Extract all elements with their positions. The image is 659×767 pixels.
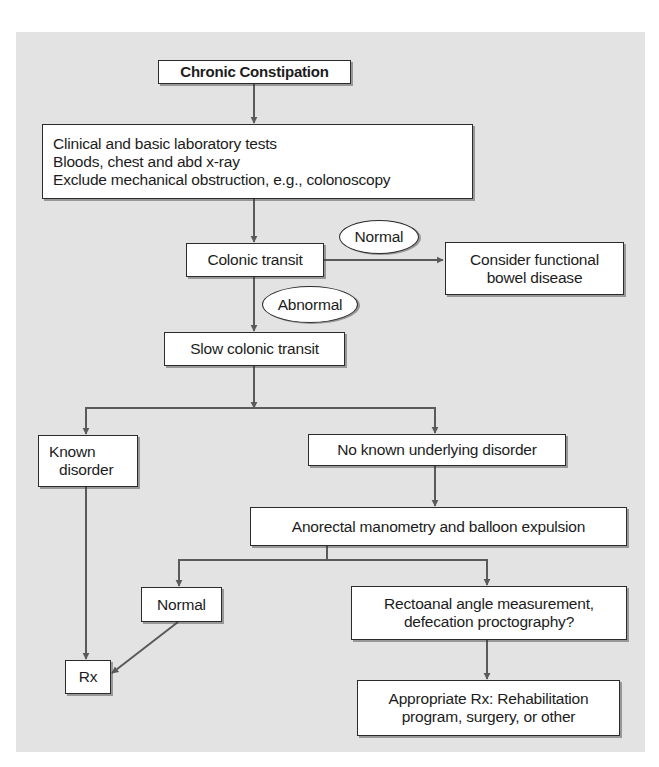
node-rx: Rx — [65, 660, 111, 694]
node-slow-colonic-transit: Slow colonic transit — [164, 332, 345, 366]
node-line: Appropriate Rx: Rehabilitation — [389, 690, 589, 708]
node-label: Anorectal manometry and balloon expulsio… — [292, 518, 585, 536]
node-no-known-disorder: No known underlying disorder — [308, 434, 566, 466]
edge-label-text: Abnormal — [278, 296, 343, 314]
node-line: Exclude mechanical obstruction, e.g., co… — [53, 171, 472, 189]
node-known-disorder: Known disorder — [38, 435, 138, 487]
node-line: defecation proctography? — [404, 613, 574, 631]
branch-anorectal-right — [327, 560, 487, 585]
node-line: Clinical and basic laboratory tests — [53, 135, 472, 153]
node-rectoanal-angle: Rectoanal angle measurement, defecation … — [351, 586, 627, 640]
node-label: Normal — [157, 596, 206, 614]
node-label: No known underlying disorder — [337, 441, 536, 459]
connector-layer — [0, 0, 659, 767]
edge-label-text: Normal — [355, 228, 404, 246]
node-line: Rectoanal angle measurement, — [384, 595, 594, 613]
node-functional-bowel-disease: Consider functional bowel disease — [445, 242, 624, 295]
node-colonic-transit: Colonic transit — [186, 243, 324, 277]
edge-label-abnormal: Abnormal — [262, 286, 358, 323]
node-label: Rx — [79, 668, 98, 686]
node-line: Consider functional — [470, 251, 599, 269]
branch-slow-left — [86, 408, 254, 434]
node-line: disorder — [39, 461, 113, 479]
node-line: program, surgery, or other — [402, 708, 576, 726]
node-label: Slow colonic transit — [190, 340, 319, 358]
node-initial-tests: Clinical and basic laboratory tests Bloo… — [42, 124, 473, 199]
node-appropriate-rx: Appropriate Rx: Rehabilitation program, … — [357, 680, 620, 736]
branch-anorectal-left — [179, 560, 327, 586]
node-line: bowel disease — [487, 269, 583, 287]
node-line: Bloods, chest and abd x-ray — [53, 153, 472, 171]
node-line: Known — [39, 443, 95, 461]
edge-label-normal: Normal — [339, 220, 419, 254]
node-normal-result: Normal — [141, 587, 222, 622]
node-anorectal-manometry: Anorectal manometry and balloon expulsio… — [250, 507, 627, 546]
branch-slow-right — [254, 408, 435, 433]
arrow-normal-to-rx — [112, 622, 178, 673]
node-chronic-constipation: Chronic Constipation — [158, 60, 351, 84]
node-label: Colonic transit — [207, 251, 302, 269]
node-label: Chronic Constipation — [180, 63, 329, 81]
